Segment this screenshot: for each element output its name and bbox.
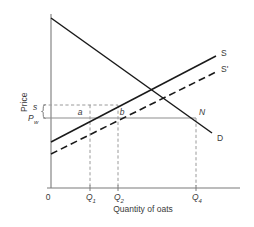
x-tick-label-q2: Q 2: [114, 192, 125, 204]
y-axis-title: Price: [19, 92, 29, 112]
x-tick-label-q4-sub: 4: [199, 198, 203, 204]
brace-shape: [42, 105, 46, 119]
annotation-a: a: [78, 107, 83, 117]
curves-group: [51, 18, 216, 154]
annotation-b: b: [120, 107, 125, 117]
supply-curve-s: [51, 56, 216, 142]
curve-label-s-prime: S': [221, 64, 229, 74]
x-axis-title: Quantity of oats: [113, 204, 173, 214]
x-tick-label-q1-sub: 1: [93, 198, 96, 204]
supply-demand-figure: Price Quantity of oats 0 Q 1 Q 2 Q 4 P w…: [0, 0, 254, 227]
curve-label-s: S: [221, 48, 227, 58]
curve-label-d: D: [217, 133, 223, 143]
chart-canvas: Price Quantity of oats 0 Q 1 Q 2 Q 4 P w…: [0, 0, 254, 227]
demand-curve-d: [51, 18, 212, 133]
world-price-label: P w: [28, 113, 39, 125]
origin-label: 0: [46, 192, 51, 202]
axes-group: [47, 14, 240, 188]
subsidy-label: s: [33, 102, 38, 112]
annotation-n: N: [199, 107, 206, 117]
subsidy-brace: [42, 105, 46, 119]
quantity-drop-lines: [90, 105, 196, 186]
world-price-label-sub: w: [34, 119, 39, 125]
x-tick-label-q4: Q 4: [192, 192, 203, 204]
x-tick-label-q1: Q 1: [86, 192, 96, 204]
supply-curve-s-prime: [51, 72, 216, 154]
x-tick-label-q2-sub: 2: [120, 198, 125, 204]
